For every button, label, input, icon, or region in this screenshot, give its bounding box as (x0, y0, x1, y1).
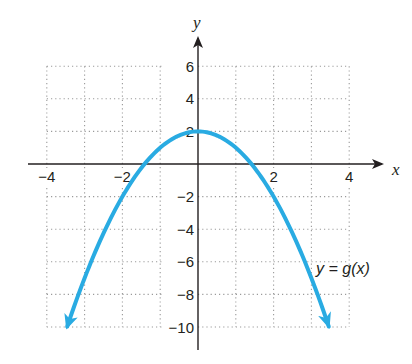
x-tick-label: 2 (269, 168, 277, 185)
x-tick-label: −4 (38, 168, 55, 185)
x-tick-label: −2 (114, 168, 131, 185)
x-tick-label: 4 (345, 168, 353, 185)
function-label: y = g(x) (315, 260, 370, 277)
y-tick-label: −4 (177, 221, 194, 238)
y-tick-label: −10 (169, 319, 194, 336)
x-axis-label: x (391, 160, 400, 179)
y-tick-label: −8 (177, 286, 194, 303)
y-tick-label: 6 (186, 58, 194, 75)
annotations: y = g(x) (315, 260, 370, 277)
y-tick-label: −6 (177, 253, 194, 270)
left-arrow-head-icon (60, 313, 78, 332)
parabola-graph: xy −4−224642−2−4−6−8−10 y = g(x) (0, 0, 412, 364)
y-tick-label: −2 (177, 188, 194, 205)
y-tick-label: 4 (186, 90, 194, 107)
y-axis-label: y (191, 13, 201, 32)
